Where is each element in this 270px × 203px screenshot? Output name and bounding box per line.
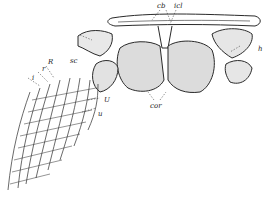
label-icl: icl: [174, 3, 182, 10]
clavicle-bar: [108, 14, 260, 26]
label-cb: cb: [157, 3, 165, 10]
fin-rays: [8, 78, 98, 190]
label-R: R: [48, 59, 53, 66]
label-h: h: [258, 46, 263, 53]
label-cor: cor: [150, 103, 161, 110]
coracoid-right: [168, 41, 214, 92]
scapula: [78, 31, 112, 57]
humerus: [212, 29, 252, 58]
label-u: u: [98, 111, 103, 118]
coracoid-left: [117, 42, 164, 92]
label-sc: sc: [70, 58, 78, 65]
label-r: r: [42, 66, 45, 73]
label-i: i: [32, 75, 34, 82]
label-U: U: [104, 97, 110, 104]
anatomical-figure: [0, 0, 270, 203]
